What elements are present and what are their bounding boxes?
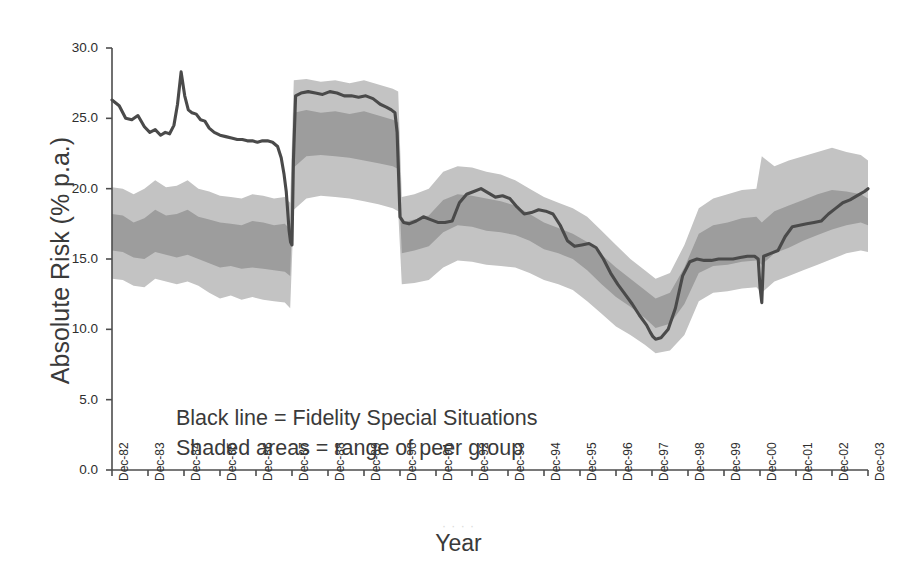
plot-area xyxy=(0,0,917,575)
x-tick-label: Dec-98 xyxy=(693,442,707,481)
x-tick-label: Dec-02 xyxy=(837,442,851,481)
x-tick-label: Dec-96 xyxy=(621,442,635,481)
y-tick-label: 25.0 xyxy=(52,110,98,125)
y-tick-label: 15.0 xyxy=(52,251,98,266)
annotation-shaded-areas: Shaded areas = range of peer group xyxy=(176,436,523,461)
peer-group-bands xyxy=(112,79,868,353)
x-tick-label: Dec-03 xyxy=(873,442,887,481)
x-tick-label: Dec-01 xyxy=(801,442,815,481)
x-tick-label: Dec-83 xyxy=(153,442,167,481)
y-tick-label: 5.0 xyxy=(52,392,98,407)
x-tick-label: Dec-82 xyxy=(117,442,131,481)
x-tick-label: Dec-99 xyxy=(729,442,743,481)
x-tick-label: Dec-94 xyxy=(549,442,563,481)
y-tick-label: 30.0 xyxy=(52,40,98,55)
x-tick-label: Dec-95 xyxy=(585,442,599,481)
x-tick-label: Dec-97 xyxy=(657,442,671,481)
y-tick-label: 0.0 xyxy=(52,462,98,477)
y-tick-label: 10.0 xyxy=(52,321,98,336)
annotation-black-line: Black line = Fidelity Special Situations xyxy=(176,406,538,431)
y-tick-label: 20.0 xyxy=(52,181,98,196)
risk-chart-figure: Absolute Risk (% p.a.) · · · · Year 0.05… xyxy=(0,0,917,575)
x-tick-label: Dec-00 xyxy=(765,442,779,481)
